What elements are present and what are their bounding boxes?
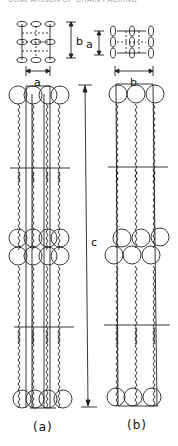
caption-a: (a) xyxy=(33,420,53,434)
inset-left-b-label: b xyxy=(76,35,83,48)
chain-stack-a xyxy=(9,86,74,408)
inset-right-a-label: a xyxy=(86,38,93,51)
inset-lattice-b xyxy=(94,26,154,76)
inset-right-b-label: b xyxy=(130,76,137,89)
chain-packing-diagram: b a a b xyxy=(0,0,178,446)
chain-stack-b xyxy=(104,84,170,406)
dimension-c-label: c xyxy=(91,236,97,249)
inset-lattice-a xyxy=(17,22,76,77)
caption-b: (b) xyxy=(127,418,147,432)
